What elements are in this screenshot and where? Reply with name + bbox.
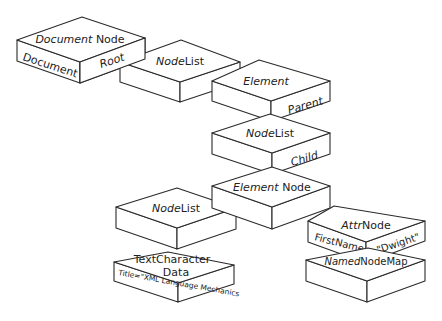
text-character-data-box: TextCharacter Data Title="XML Language M… xyxy=(114,252,240,302)
document-node-label: Document Node xyxy=(35,33,124,46)
named-node-map-label: NamedNodeMap xyxy=(324,256,407,267)
nodelist-1-label: NodeList xyxy=(156,55,205,68)
nodelist-2-box: NodeList Child xyxy=(212,114,330,174)
nodelist-2-label: NodeList xyxy=(246,127,295,140)
element-node-label: Element Node xyxy=(233,181,311,194)
attr-node-label: AttrNode xyxy=(340,219,391,232)
dom-diagram: Document Node Document Root NodeList Roo… xyxy=(0,0,442,321)
element-parent-label: Element xyxy=(243,75,289,88)
text-character-data-label-line1: TextCharacter xyxy=(133,253,211,266)
nodelist-3-label: NodeList xyxy=(152,202,201,215)
named-node-map-box: NamedNodeMap xyxy=(306,248,425,302)
